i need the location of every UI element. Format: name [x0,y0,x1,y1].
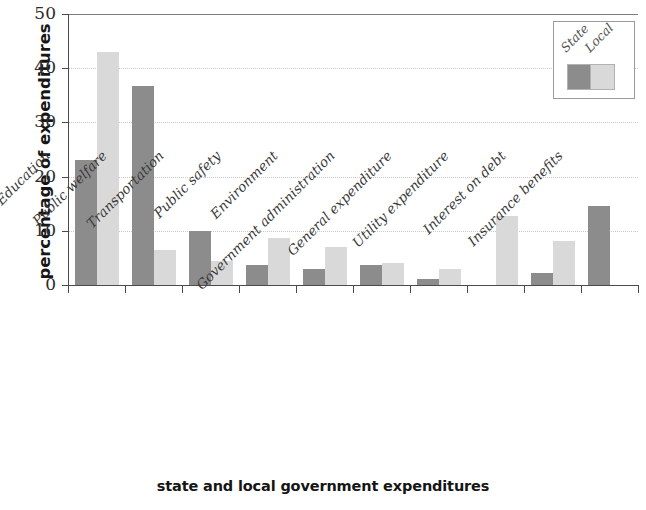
gridline [68,122,638,123]
gridline [68,231,638,232]
bar-state [588,206,610,285]
gridline [68,14,638,15]
y-tick-label: 40 [16,57,56,77]
x-tick-mark [467,285,468,293]
chart-legend: State Local [553,21,635,99]
x-tick-mark [581,285,582,293]
x-tick-mark [524,285,525,293]
bar-local [496,216,518,285]
bar-state [531,273,553,285]
legend-swatch-local [590,64,615,90]
y-tick-label: 50 [16,3,56,23]
x-tick-mark [638,285,639,293]
bar-local [553,241,575,285]
legend-swatch-state [567,64,592,90]
x-axis-title: state and local government expenditures [0,478,646,494]
y-tick-label: 30 [16,111,56,131]
bar-chart-figure: percentage of expenditures state and loc… [0,0,646,510]
